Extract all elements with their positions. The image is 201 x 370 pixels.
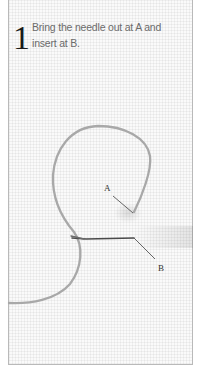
- step-header: 1 Bring the needle out at A and insert a…: [13, 19, 172, 53]
- fabric-shading-b: [135, 226, 193, 248]
- label-a: A: [104, 183, 111, 193]
- stitch-diagram: A B: [0, 0, 201, 370]
- label-b: B: [158, 263, 164, 273]
- step-number: 1: [13, 23, 29, 53]
- step-instruction: Bring the needle out at A and insert at …: [32, 19, 172, 51]
